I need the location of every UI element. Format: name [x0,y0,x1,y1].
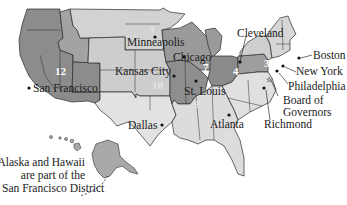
city-label-atlanta: Atlanta [210,119,244,131]
city-label-chicago: Chicago [173,52,211,64]
district-number-12: 12 [55,66,66,77]
city-dot-san-francisco [27,86,30,89]
note-line-2: are part of the [0,169,85,182]
city-dot-richmond [262,86,265,89]
city-dot-new-york [281,64,284,67]
city-dot-kansas-city [172,74,175,77]
alaska-hawaii-note: Alaska and Hawaii are part of the [0,156,85,182]
board-of-governors-label-line1: Board of [283,95,324,107]
district-number-9: 9 [149,24,155,35]
district-number-8: 8 [194,99,200,110]
city-dot-boston [297,56,300,59]
city-label-richmond: Richmond [264,119,312,131]
alaska-region [92,140,138,178]
city-dot-atlanta [227,113,230,116]
city-label-dallas: Dallas [128,120,157,132]
federal-reserve-district-map: ☆ 9 12 10 7 4 3 8 6 Minneapolis Kansas C… [0,0,347,205]
district-number-6: 6 [225,132,229,140]
district-number-4: 4 [233,66,239,77]
district-number-10: 10 [152,80,163,91]
alaska-hawaii-note-line-3: San Francisco District [2,182,104,195]
city-label-st-louis: St. Louis [184,86,226,98]
district-number-3: 3 [264,58,270,69]
board-of-governors-label-line2: Governors [283,107,332,119]
note-line-1: Alaska and Hawaii [0,156,85,169]
city-dot-philadelphia [275,69,278,72]
city-label-boston: Boston [313,50,346,62]
hawaii-region [50,136,82,152]
city-label-cleveland: Cleveland [237,28,284,40]
city-label-minneapolis: Minneapolis [127,37,185,49]
district-number-7: 7 [203,62,209,73]
city-label-san-francisco: San Francisco [33,83,98,95]
city-label-philadelphia: Philadelphia [288,81,346,93]
city-dot-dallas [160,123,163,126]
city-label-kansas-city: Kansas City [115,66,171,78]
city-label-new-york: New York [296,66,343,78]
city-dot-st-louis [194,79,197,82]
